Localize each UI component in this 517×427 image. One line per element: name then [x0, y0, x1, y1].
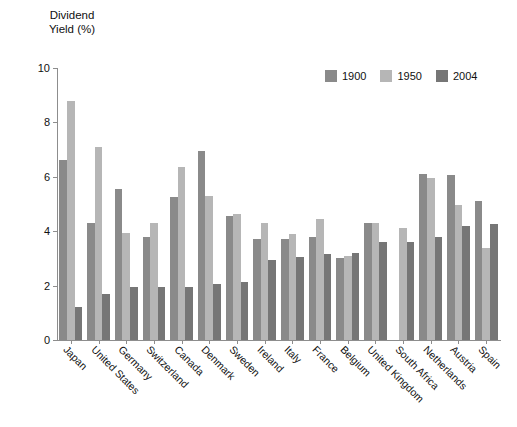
- bar-group: [334, 68, 362, 340]
- bar: [185, 287, 193, 340]
- bar: [268, 260, 276, 340]
- bar: [205, 196, 213, 340]
- bar: [241, 282, 249, 340]
- bar-group: [85, 68, 113, 340]
- x-axis-label-slot: Germany: [112, 341, 140, 427]
- x-axis-label-slot: Belgium: [334, 341, 362, 427]
- x-axis-tick-mark: [209, 341, 210, 344]
- bar: [316, 219, 324, 340]
- bar-group: [195, 68, 223, 340]
- bar: [399, 228, 407, 340]
- x-axis-label-slot: Canada: [168, 341, 196, 427]
- bar: [261, 223, 269, 340]
- bar-group: [306, 68, 334, 340]
- bar: [115, 189, 123, 340]
- bar: [178, 167, 186, 340]
- bar: [198, 151, 206, 340]
- bar: [170, 197, 178, 340]
- bar-group: [57, 68, 85, 340]
- bar: [490, 224, 498, 340]
- legend-label: 1950: [397, 70, 421, 82]
- x-axis-label-slot: Spain: [472, 341, 500, 427]
- x-axis-tick-label: Spain: [476, 344, 503, 371]
- y-axis-title: Dividend Yield (%): [24, 8, 120, 36]
- x-axis-tick-mark: [320, 341, 321, 344]
- bar: [462, 226, 470, 340]
- bar: [324, 254, 332, 340]
- legend-swatch: [380, 70, 392, 82]
- x-axis-label-slot: United Kingdom: [362, 341, 390, 427]
- x-axis-label-slot: Switzerland: [140, 341, 168, 427]
- bar: [427, 178, 435, 340]
- bar-group: [445, 68, 473, 340]
- legend-item: 1900: [325, 70, 366, 82]
- x-axis-label-slot: Ireland: [251, 341, 279, 427]
- x-axis-tick-mark: [237, 341, 238, 344]
- x-axis-tick-mark: [375, 341, 376, 344]
- bar: [143, 237, 151, 340]
- bar-group: [279, 68, 307, 340]
- bar: [336, 258, 344, 340]
- bar-group: [251, 68, 279, 340]
- bar: [95, 147, 103, 340]
- x-axis-label-slot: South Africa: [389, 341, 417, 427]
- x-axis-label-slot: Sweden: [223, 341, 251, 427]
- x-axis-label-slot: Austria: [445, 341, 473, 427]
- bar: [122, 233, 130, 340]
- x-axis-tick-mark: [154, 341, 155, 344]
- bar: [59, 160, 67, 340]
- bar: [447, 175, 455, 340]
- bar-group: [140, 68, 168, 340]
- legend-swatch: [325, 70, 337, 82]
- x-axis-tick-mark: [71, 341, 72, 344]
- x-axis-tick-mark: [126, 341, 127, 344]
- bar: [226, 216, 234, 340]
- bar: [455, 205, 463, 340]
- bar-group: [223, 68, 251, 340]
- bar: [407, 242, 415, 340]
- bar: [130, 287, 138, 340]
- bar-group: [112, 68, 140, 340]
- bar-group: [472, 68, 500, 340]
- bar: [150, 223, 158, 340]
- legend-label: 2004: [453, 70, 477, 82]
- bar: [379, 242, 387, 340]
- x-axis-label-slot: Japan: [57, 341, 85, 427]
- x-axis-label-slot: Italy: [279, 341, 307, 427]
- x-axis-tick-mark: [292, 341, 293, 344]
- bar-group: [417, 68, 445, 340]
- x-axis-tick-label: Italy: [283, 344, 304, 365]
- legend-label: 1900: [342, 70, 366, 82]
- bar: [253, 239, 261, 340]
- bar: [289, 234, 297, 340]
- x-axis-tick-mark: [403, 341, 404, 344]
- legend-swatch: [436, 70, 448, 82]
- bar: [372, 223, 380, 340]
- x-axis-tick-mark: [458, 341, 459, 344]
- x-axis-label-slot: Netherlands: [417, 341, 445, 427]
- x-axis-labels: JapanUnited StatesGermanySwitzerlandCana…: [57, 341, 500, 427]
- legend-item: 2004: [436, 70, 477, 82]
- bar: [482, 248, 490, 340]
- bar-group: [168, 68, 196, 340]
- bar: [67, 101, 75, 340]
- x-axis-label-slot: United States: [85, 341, 113, 427]
- plot-area: 0246810: [57, 68, 500, 340]
- bar: [364, 223, 372, 340]
- legend-item: 1950: [380, 70, 421, 82]
- bar: [87, 223, 95, 340]
- x-axis-tick-mark: [486, 341, 487, 344]
- dividend-yield-bar-chart: Dividend Yield (%) 0246810 JapanUnited S…: [0, 0, 517, 427]
- bar: [309, 237, 317, 340]
- bar: [419, 174, 427, 340]
- bar: [296, 257, 304, 340]
- bar-group: [362, 68, 390, 340]
- bar: [344, 256, 352, 340]
- bar: [213, 284, 221, 340]
- bar: [102, 294, 110, 340]
- x-axis-label-slot: France: [306, 341, 334, 427]
- bar: [158, 287, 166, 340]
- x-axis-label-slot: Denmark: [195, 341, 223, 427]
- bar: [352, 253, 360, 340]
- chart-legend: 190019502004: [325, 70, 477, 82]
